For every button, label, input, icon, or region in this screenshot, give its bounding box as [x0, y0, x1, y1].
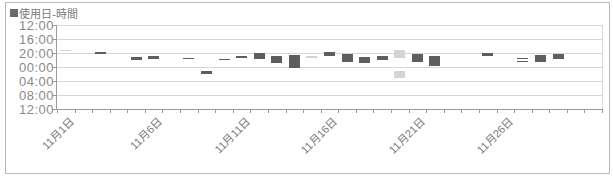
usage-bar: [254, 53, 265, 59]
usage-bar: [482, 53, 493, 56]
x-tick: [57, 109, 58, 113]
legend-swatch: [10, 9, 18, 17]
x-tick: [198, 109, 199, 113]
x-tick: [127, 109, 128, 113]
x-tick: [549, 109, 550, 113]
x-tick: [426, 109, 427, 113]
x-tick: [444, 109, 445, 113]
usage-bar: [394, 50, 405, 57]
gridline: [57, 67, 602, 68]
usage-bar: [377, 56, 388, 60]
x-tick: [321, 109, 322, 113]
y-tick-label: 04:00: [2, 75, 54, 88]
usage-bar: [359, 57, 370, 63]
x-tick: [514, 109, 515, 113]
usage-bar: [306, 56, 317, 58]
x-tick: [215, 109, 216, 113]
x-tick: [409, 109, 410, 113]
x-tick: [250, 109, 251, 113]
usage-bar: [394, 71, 405, 77]
usage-bar: [219, 59, 230, 61]
gridline: [57, 25, 602, 26]
x-tick: [233, 109, 234, 113]
x-tick: [286, 109, 287, 113]
x-tick: [373, 109, 374, 113]
x-tick: [602, 109, 603, 113]
x-tick: [391, 109, 392, 113]
y-tick-label: 12:00: [2, 19, 54, 32]
y-tick-label: 00:00: [2, 61, 54, 74]
x-tick: [268, 109, 269, 113]
x-tick: [145, 109, 146, 113]
usage-bar: [148, 56, 159, 59]
y-tick-label: 08:00: [2, 89, 54, 102]
usage-bar: [236, 56, 247, 58]
usage-bar: [517, 61, 528, 63]
usage-bar: [60, 50, 71, 52]
usage-bar: [553, 54, 564, 59]
usage-bar: [131, 57, 142, 61]
usage-bar: [183, 58, 194, 60]
usage-bar: [271, 56, 282, 63]
x-tick: [75, 109, 76, 113]
x-axis: [56, 109, 602, 110]
gridline: [57, 81, 602, 82]
y-tick-label: 16:00: [2, 33, 54, 46]
usage-bar: [201, 71, 212, 74]
x-tick: [92, 109, 93, 113]
y-tick-label: 20:00: [2, 47, 54, 60]
usage-bar: [535, 55, 546, 62]
x-tick: [303, 109, 304, 113]
x-tick: [180, 109, 181, 113]
x-tick: [567, 109, 568, 113]
usage-bar: [342, 54, 353, 62]
usage-bar: [324, 52, 335, 56]
usage-bar: [95, 52, 106, 54]
gridline: [57, 95, 602, 96]
y-tick-label: 12:00: [2, 103, 54, 116]
x-tick: [497, 109, 498, 113]
x-tick: [532, 109, 533, 113]
x-tick: [338, 109, 339, 113]
x-tick: [461, 109, 462, 113]
x-tick: [584, 109, 585, 113]
usage-bar: [289, 55, 300, 68]
plot-right-border: [602, 25, 603, 109]
y-axis: [56, 25, 57, 110]
usage-bar: [517, 58, 528, 60]
x-tick: [479, 109, 480, 113]
x-tick: [162, 109, 163, 113]
gridline: [57, 39, 602, 40]
x-tick: [110, 109, 111, 113]
usage-bar: [429, 56, 440, 66]
x-tick: [356, 109, 357, 113]
usage-bar: [412, 54, 423, 62]
